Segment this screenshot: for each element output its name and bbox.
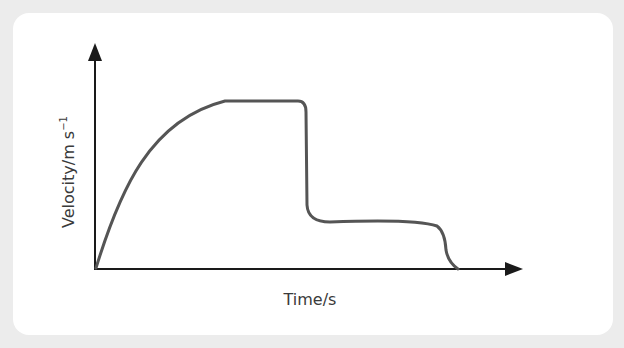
y-axis-label: Velocity/m s−1	[58, 116, 77, 228]
x-axis-label: Time/s	[284, 290, 337, 309]
velocity-curve	[96, 101, 458, 269]
y-axis-arrow-icon	[88, 43, 102, 61]
x-axis-arrow-icon	[505, 262, 523, 276]
